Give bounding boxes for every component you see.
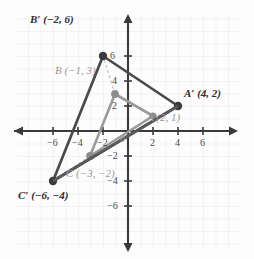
x-tick-6: 6: [200, 138, 205, 148]
y-tick-neg4: −4: [107, 176, 118, 186]
y-tick-4: 4: [112, 76, 117, 86]
label-a-prime: A′ (4, 2): [184, 88, 221, 99]
label-b: B (−1, 3): [55, 65, 96, 76]
coordinate-plane-figure: B′ (−2, 6) B (−1, 3) A′ (4, 2) A (2, 1) …: [0, 0, 254, 259]
label-a: A (2, 1): [147, 112, 180, 123]
label-b-prime: B′ (−2, 6): [30, 14, 74, 25]
y-tick-6: 6: [110, 51, 115, 61]
label-c-prime: C′ (−6, −4): [18, 190, 68, 201]
point-b: [111, 90, 119, 98]
x-tick-neg2: −2: [97, 138, 108, 148]
graph-canvas: [0, 0, 254, 259]
x-tick-4: 4: [175, 138, 180, 148]
x-tick-neg6: −6: [47, 138, 58, 148]
x-tick-zero: 0: [120, 134, 125, 144]
point-b-prime: [99, 52, 107, 60]
x-tick-neg4: −4: [72, 138, 83, 148]
x-tick-2: 2: [150, 138, 155, 148]
y-tick-neg6: −6: [107, 201, 118, 211]
y-tick-neg2: −2: [107, 151, 118, 161]
y-tick-2: 2: [112, 101, 117, 111]
